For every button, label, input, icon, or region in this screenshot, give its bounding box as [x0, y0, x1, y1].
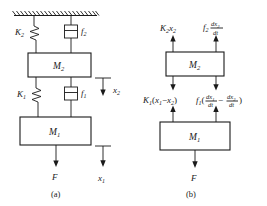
mechanical-system-figure: K2 f2 M2 K1 f1 — [0, 0, 267, 206]
displacement-x1-label: x1 — [97, 173, 105, 184]
force-f2dx2dt-arrow: f2 dx2 dt — [203, 20, 223, 52]
svg-text:f2: f2 — [203, 22, 209, 33]
force-k2x2-arrow: K2x2 — [159, 23, 176, 52]
fixed-support-ceiling — [13, 11, 100, 16]
applied-force-f-b: F — [190, 150, 198, 183]
svg-text:−: − — [218, 95, 223, 105]
mass-m1-block: M1 — [20, 117, 91, 145]
damper-f1-label: f1 — [81, 88, 87, 99]
damper-f2-label: f2 — [81, 26, 87, 37]
fbd-m2-bottom-arrows — [170, 76, 218, 91]
mass-m2-block: M2 — [28, 53, 91, 77]
force-f1dx1dx2-label: f1( dx1 dt − dx2 dt ) — [196, 93, 242, 108]
svg-text:dt: dt — [213, 29, 218, 36]
panel-a-caption: (a) — [51, 189, 61, 199]
spring-k1: K1 — [16, 77, 41, 117]
svg-text:): ) — [239, 95, 242, 105]
svg-text:f1(: f1( — [196, 95, 205, 106]
applied-force-f-a-label: F — [51, 172, 58, 182]
spring-k1-label: K1 — [16, 89, 26, 100]
damper-f2: f2 — [65, 16, 87, 54]
spring-k2: K2 — [14, 16, 39, 54]
displacement-x1: x1 — [95, 146, 111, 184]
force-f2dx2dt-label: f2 dx2 dt — [203, 20, 223, 36]
applied-force-f-b-label: F — [190, 173, 197, 183]
panel-b-free-body: K2x2 f2 dx2 dt M2 K1(x1−x2) — [142, 20, 242, 199]
svg-text:dx2: dx2 — [211, 20, 220, 29]
force-k1x1x2-label: K1(x1−x2) — [142, 95, 177, 106]
panel-a-schematic: K2 f2 M2 K1 f1 — [13, 11, 121, 199]
fbd-mass-m1-block: M1 — [160, 122, 230, 150]
svg-text:K1(x1−x2): K1(x1−x2) — [142, 95, 177, 106]
panel-b-caption: (b) — [186, 189, 196, 199]
svg-text:dt: dt — [208, 101, 213, 108]
spring-k2-label: K2 — [14, 27, 24, 38]
svg-text:dt: dt — [229, 101, 234, 108]
damper-f1: f1 — [65, 77, 87, 117]
fbd-mass-m2-block: M2 — [166, 52, 224, 76]
force-k2x2-label: K2x2 — [159, 23, 176, 34]
displacement-x2: x2 — [95, 78, 120, 96]
applied-force-f-a: F — [51, 145, 59, 182]
displacement-x2-label: x2 — [112, 85, 120, 96]
